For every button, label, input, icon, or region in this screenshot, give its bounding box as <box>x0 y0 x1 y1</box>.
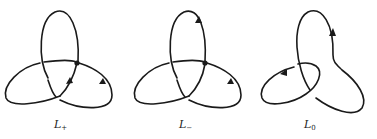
label-l-zero: L0 <box>304 118 316 132</box>
arrow-down-icon <box>227 78 234 84</box>
knot-strand <box>44 61 76 63</box>
panel-l-zero: L0 <box>250 0 377 139</box>
knot-strand <box>173 61 205 63</box>
panel-l-plus: L+ <box>0 0 130 139</box>
skein-triple-figure: L+ L− L0 <box>0 0 377 139</box>
crossing-dot-icon <box>74 60 79 65</box>
panel-l-minus: L− <box>125 0 255 139</box>
knot-strand <box>177 80 185 97</box>
knot-strand <box>60 63 77 96</box>
knot-strand <box>48 80 56 97</box>
knot-strand <box>189 64 205 96</box>
knot-strand <box>5 63 60 104</box>
knot-strand <box>297 11 364 113</box>
knot-strand <box>261 63 319 104</box>
label-l-plus: L+ <box>54 118 67 132</box>
knot-strand <box>41 11 78 78</box>
label-l-minus: L− <box>179 118 192 132</box>
arrow-up-icon <box>195 16 202 23</box>
crossing-dot-icon <box>202 60 207 65</box>
knot-strand <box>134 63 189 104</box>
